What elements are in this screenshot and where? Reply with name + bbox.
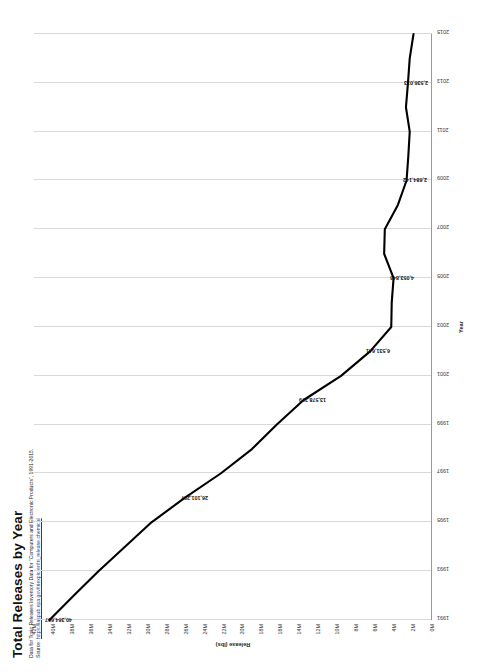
chart-page: Total Releases by Year Data for Toxic Re… [0,0,487,672]
y-axis-tick-label: 36M [88,624,94,635]
source-prefix-label: Source: [35,639,41,658]
y-axis-tick-label: 42M [31,624,37,635]
y-axis-tick-label: 2M [410,624,416,632]
x-axis-tick-label: 2003 [437,322,449,328]
x-axis-tick-label: 1999 [437,420,449,426]
y-axis-tick-label: 16M [277,624,283,635]
x-axis-tick-label: 2013 [437,78,449,84]
y-axis-tick-label: 32M [126,624,132,635]
y-axis-tick-label: 18M [258,624,264,635]
y-axis-tick-label: 4M [391,624,397,632]
y-axis-tick-label: 34M [107,624,113,635]
y-axis-tick-label: 30M [145,624,151,635]
data-point-label: 13,578,279 [299,397,326,403]
x-axis-tick-label: 1993 [437,566,449,572]
data-point-label: 2,536,013 [404,80,428,86]
y-axis-tick-label: 38M [69,624,75,635]
y-axis-tick-label: 10M [334,624,340,635]
y-axis-tick-label: 8M [353,624,359,632]
data-point-label: 26,101,297 [181,495,208,501]
y-axis-tick-label: 40M [50,624,56,635]
x-axis-tick-label: 2001 [437,371,449,377]
x-axis-tick-label: 2009 [437,176,449,182]
x-axis-tick-label: 1991 [437,615,449,621]
y-axis-tick-label: 0M [429,624,435,632]
y-axis-tick-label: 6M [372,624,378,632]
data-point-label: 6,531,641 [366,348,390,354]
y-axis-tick-label: 22M [221,624,227,635]
plot-area: 40,364,69726,101,29713,578,2796,531,6414… [34,34,432,620]
data-point-label: 4,053,846 [390,275,414,281]
data-point-label: 40,364,697 [45,617,72,623]
x-axis-title: Year [458,321,464,333]
y-axis-tick-label: 24M [202,624,208,635]
x-axis-tick-label: 1995 [437,517,449,523]
data-point-label: 2,684,142 [403,178,427,184]
x-axis-tick-label: 2011 [437,127,449,133]
x-axis-tick-label: 1997 [437,469,449,475]
y-axis-tick-label: 12M [315,624,321,635]
y-axis-tick-label: 20M [239,624,245,635]
y-axis-tick-label: 26M [183,624,189,635]
x-axis-tick-label: 2005 [437,273,449,279]
x-axis-tick-label: 2015 [437,29,449,35]
y-axis-tick-label: 28M [164,624,170,635]
y-axis-tick-label: 14M [296,624,302,635]
y-axis-title: Release (lbs) [216,642,251,648]
rotated-page-canvas: Total Releases by Year Data for Toxic Re… [0,0,487,672]
point-label-layer: 40,364,69726,101,29713,578,2796,531,6414… [34,34,432,620]
page-title: Total Releases by Year [10,238,26,658]
x-axis-tick-label: 2007 [437,224,449,230]
